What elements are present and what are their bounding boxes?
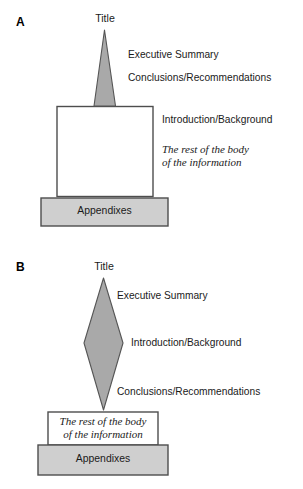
panel-b-label-conclusions-recommendations: Conclusions/Recommendations (117, 386, 260, 398)
panel-b-appendix-label: Appendixes (38, 453, 168, 465)
panel-a-letter: A (16, 16, 25, 28)
panel-b-body-note: The rest of the body of the information (48, 415, 158, 441)
diagram-canvas: A Title Executive Summary Conclusions/Re… (0, 0, 303, 489)
panel-a-triangle (94, 30, 116, 106)
panel-a-label-introduction-background: Introduction/Background (162, 114, 272, 126)
panel-b-title-label: Title (54, 260, 154, 272)
panel-b-letter: B (16, 261, 25, 273)
panel-a-appendix-label: Appendixes (41, 205, 168, 217)
panel-b-label-executive-summary: Executive Summary (117, 290, 208, 302)
panel-a-body-box (57, 107, 153, 197)
panel-a-label-conclusions-recommendations: Conclusions/Recommendations (128, 72, 271, 84)
panel-a-label-executive-summary: Executive Summary (128, 49, 219, 61)
panel-b-label-introduction-background: Introduction/Background (131, 337, 241, 349)
panel-a-body-note: The rest of the body of the information (162, 143, 302, 169)
panel-a-title-label: Title (55, 12, 155, 24)
